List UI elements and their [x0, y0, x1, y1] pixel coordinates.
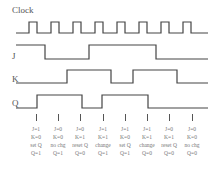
action-text: change	[136, 141, 158, 149]
action-text: change	[92, 141, 114, 149]
action-text: no chg	[181, 141, 203, 149]
k-label: K	[12, 75, 19, 84]
clock-label: Clock	[12, 6, 34, 15]
clock-edge-marker	[58, 114, 59, 121]
k-value: K=1	[136, 133, 158, 141]
k-value: K=1	[69, 133, 91, 141]
clock-edge-marker	[36, 114, 37, 121]
q-value: Q=0	[158, 149, 180, 157]
clock-edge-marker	[125, 114, 126, 121]
clock-edge-marker	[147, 114, 148, 121]
j-label: J	[12, 52, 16, 61]
k-value: K=0	[47, 133, 69, 141]
state-column: J=1 K=0 set Q Q=1	[114, 114, 136, 157]
k-value: K=0	[181, 133, 203, 141]
state-column: J=0 K=0 no chg Q=0	[181, 114, 203, 157]
k-value: K=0	[114, 133, 136, 141]
action-text: reset Q	[158, 141, 180, 149]
q-value: Q=1	[25, 149, 47, 157]
q-value: Q=0	[69, 149, 91, 157]
j-value: J=0	[158, 125, 180, 133]
action-text: reset Q	[69, 141, 91, 149]
q-value: Q=1	[92, 149, 114, 157]
state-column: J=0 K=0 no chg Q=1	[47, 114, 69, 157]
q-waveform	[16, 95, 208, 108]
state-column: J=1 K=1 change Q=0	[136, 114, 158, 157]
action-text: set Q	[25, 141, 47, 149]
j-value: J=1	[136, 125, 158, 133]
action-text: no chg	[47, 141, 69, 149]
clock-waveform	[16, 22, 208, 33]
state-column: J=1 K=1 change Q=1	[92, 114, 114, 157]
j-value: J=0	[69, 125, 91, 133]
j-value: J=0	[181, 125, 203, 133]
q-label: Q	[12, 99, 19, 108]
clock-edge-marker	[169, 114, 170, 121]
k-waveform	[16, 70, 208, 83]
q-value: Q=0	[136, 149, 158, 157]
j-waveform	[16, 45, 208, 59]
q-value: Q=1	[114, 149, 136, 157]
k-value: K=0	[25, 133, 47, 141]
clock-edge-marker	[103, 114, 104, 121]
j-value: J=1	[25, 125, 47, 133]
state-column: J=1 K=0 set Q Q=1	[25, 114, 47, 157]
k-value: K=1	[158, 133, 180, 141]
j-value: J=0	[47, 125, 69, 133]
clock-edge-marker	[80, 114, 81, 121]
clock-edge-marker	[192, 114, 193, 121]
j-value: J=1	[92, 125, 114, 133]
state-column: J=0 K=1 reset Q Q=0	[158, 114, 180, 157]
j-value: J=1	[114, 125, 136, 133]
q-value: Q=0	[181, 149, 203, 157]
q-value: Q=1	[47, 149, 69, 157]
state-column: J=0 K=1 reset Q Q=0	[69, 114, 91, 157]
k-value: K=1	[92, 133, 114, 141]
action-text: set Q	[114, 141, 136, 149]
